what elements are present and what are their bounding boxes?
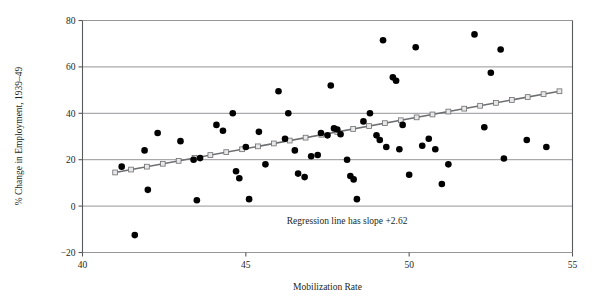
data-point: [141, 147, 148, 154]
data-point: [256, 129, 263, 136]
y-tick-label-20: 20: [66, 155, 76, 165]
data-point: [367, 110, 374, 117]
data-point: [229, 110, 236, 117]
data-point: [344, 156, 351, 163]
data-point: [177, 138, 184, 145]
data-point: [396, 146, 403, 153]
data-point: [243, 144, 250, 151]
regression-marker: [478, 103, 483, 108]
regression-marker: [446, 109, 451, 114]
data-point: [131, 232, 138, 239]
regression-marker: [160, 161, 165, 166]
regression-marker: [414, 115, 419, 120]
data-point: [523, 137, 530, 144]
data-point: [275, 88, 282, 95]
data-point: [327, 82, 334, 89]
data-point: [292, 147, 299, 154]
regression-marker: [113, 170, 118, 175]
data-point: [262, 161, 269, 168]
data-point: [501, 155, 508, 162]
regression-marker: [303, 135, 308, 140]
y-axis-title: % Change in Employment, 1939–49: [14, 66, 24, 205]
scatter-chart-figure: 40455055 −20020406080 % Change in Employ…: [0, 0, 599, 305]
x-tick-label-50: 50: [404, 260, 414, 270]
regression-marker: [509, 98, 514, 103]
regression-marker: [367, 124, 372, 129]
data-point: [337, 131, 344, 138]
data-point: [354, 196, 361, 203]
data-point: [445, 161, 452, 168]
data-point: [383, 144, 390, 151]
data-point: [318, 130, 325, 137]
y-tick-label-60: 60: [66, 62, 76, 72]
x-axis-title: Mobilization Rate: [293, 282, 362, 292]
x-tick-label-40: 40: [78, 260, 88, 270]
regression-marker: [494, 100, 499, 105]
regression-marker: [383, 121, 388, 126]
regression-marker: [145, 164, 150, 169]
data-point: [419, 142, 426, 149]
regression-marker: [176, 158, 181, 163]
data-point: [213, 122, 220, 129]
data-point: [233, 168, 240, 175]
data-point: [399, 122, 406, 129]
regression-marker: [351, 127, 356, 132]
data-point: [282, 136, 289, 143]
data-point: [314, 152, 321, 159]
data-point: [439, 181, 446, 188]
data-point: [295, 170, 302, 177]
data-point: [246, 196, 253, 203]
regression-marker: [208, 153, 213, 158]
data-point: [360, 118, 367, 125]
chart-canvas: 40455055 −20020406080 % Change in Employ…: [0, 0, 599, 305]
regression-marker: [557, 89, 562, 94]
data-point: [308, 153, 315, 160]
data-point: [145, 187, 152, 194]
y-tick-label-40: 40: [66, 109, 76, 119]
data-point: [481, 124, 488, 131]
data-point: [236, 175, 243, 182]
data-point: [324, 132, 331, 139]
data-point: [488, 69, 495, 76]
regression-marker: [430, 112, 435, 117]
regression-marker: [525, 95, 530, 100]
regression-marker: [271, 141, 276, 146]
regression-marker: [256, 144, 261, 149]
data-point: [154, 130, 161, 137]
data-point: [220, 127, 227, 134]
regression-marker: [541, 92, 546, 97]
data-point: [190, 156, 197, 163]
data-point: [376, 137, 383, 144]
regression-marker: [129, 167, 134, 172]
data-point: [194, 197, 201, 204]
y-tick-label--20: −20: [61, 248, 76, 258]
data-point: [406, 171, 413, 178]
regression-marker: [224, 150, 229, 155]
data-point: [543, 144, 550, 151]
data-point: [497, 46, 504, 53]
regression-slope-annotation: Regression line has slope +2.62: [287, 216, 408, 226]
data-point: [393, 78, 400, 85]
data-point: [118, 163, 125, 170]
data-point: [471, 31, 478, 38]
data-point: [425, 136, 432, 143]
x-tick-label-45: 45: [241, 260, 251, 270]
data-point: [350, 176, 357, 183]
y-tick-label-80: 80: [66, 16, 76, 26]
data-point: [432, 146, 439, 153]
data-point: [197, 155, 204, 162]
data-point: [412, 44, 419, 51]
data-point: [285, 110, 292, 117]
x-tick-label-55: 55: [568, 260, 578, 270]
y-tick-label-0: 0: [71, 202, 76, 212]
data-point: [301, 174, 308, 181]
regression-marker: [462, 106, 467, 111]
data-point: [380, 37, 387, 44]
plot-background: [0, 0, 599, 305]
